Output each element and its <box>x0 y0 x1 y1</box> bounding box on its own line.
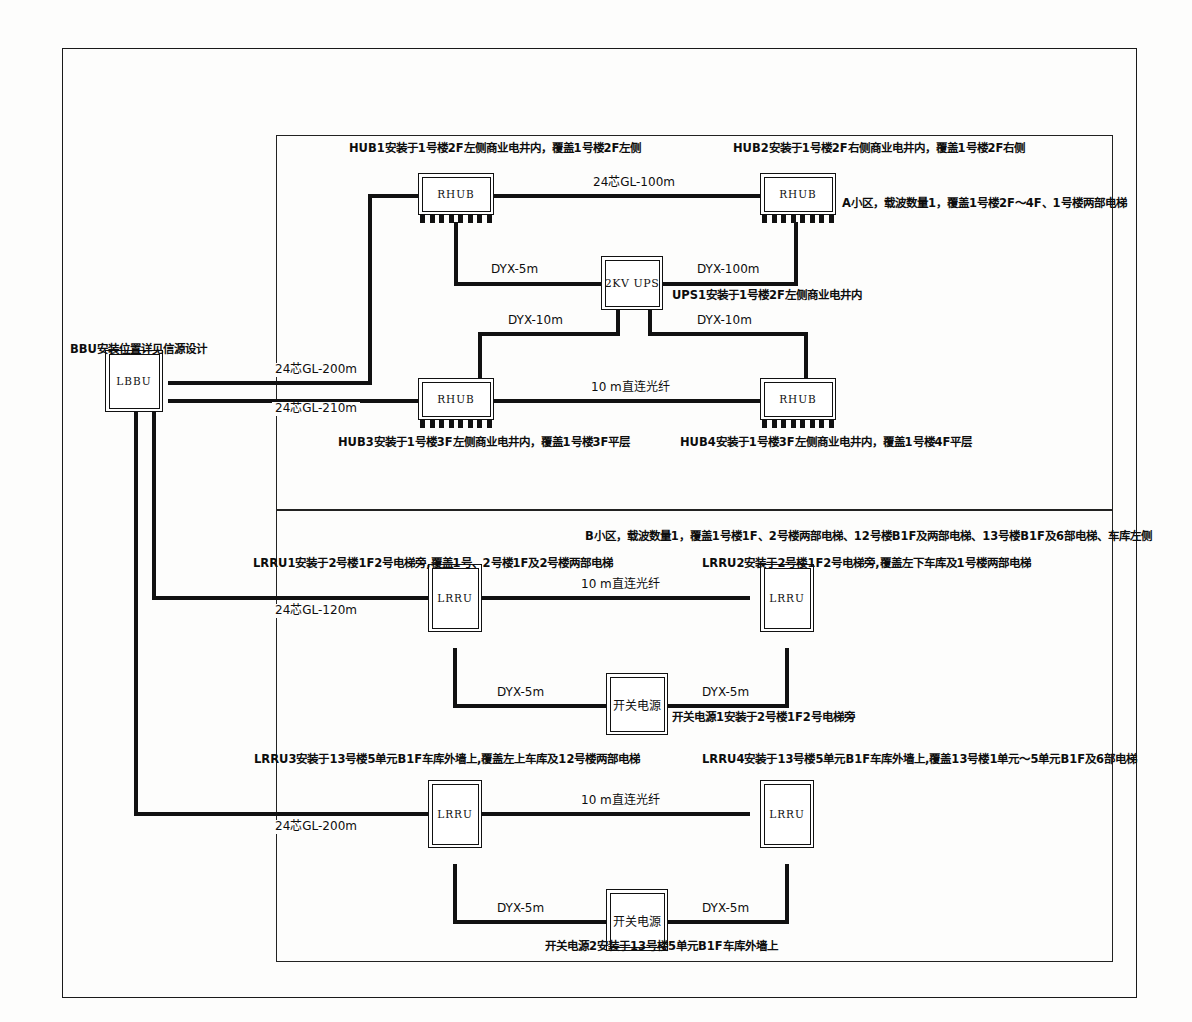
note-lrru3: LRRU3安装于13号楼5单元B1F车库外墙上,覆盖左上车库及12号楼两部电梯 <box>254 753 640 766</box>
note-ups1: UPS1安装于1号楼2F左侧商业电井内 <box>672 289 862 302</box>
note-psu2: 开关电源2安装于13号楼5单元B1F车库外墙上 <box>545 940 778 953</box>
note-rhub4: HUB4安装于1号楼3F左侧商业电井内，覆盖1号楼4F平层 <box>680 436 972 449</box>
note-lrru2: LRRU2安装于2号楼1F2号电梯旁,覆盖左下车库及1号楼两部电梯 <box>702 557 1031 570</box>
note-lrru4: LRRU4安装于13号楼5单元B1F车库外墙上,覆盖13号楼1单元～5单元B1F… <box>702 753 1137 766</box>
device-rhub1[interactable]: RHUB <box>418 173 494 215</box>
device-rhub2-connector-pins <box>762 215 834 223</box>
link-label-rhub1-rhub2: 24芯GL-100m <box>590 176 678 190</box>
link-label-rhub3-rhub4: 10 m直连光纤 <box>588 381 673 395</box>
device-lbbu[interactable]: LBBU <box>105 350 163 412</box>
wire-psu2-to-lrru4-power <box>668 920 789 924</box>
device-rhub1-label: RHUB <box>437 188 475 200</box>
device-lrru4[interactable]: LRRU <box>760 780 814 848</box>
device-lrru2-label: LRRU <box>769 592 805 604</box>
wire-lbbu-bottom-leg-inner <box>152 412 156 598</box>
link-label-psu2-lrru3: DYX-5m <box>494 902 547 916</box>
wire-lbbu-to-lrru1 <box>152 596 428 600</box>
device-lrru1-label: LRRU <box>437 592 473 604</box>
device-rhub1-connector-pins <box>420 215 492 223</box>
note-lrru1: LRRU1安装于2号楼1F2号电梯旁,覆盖1号、2号楼1F及2号楼两部电梯 <box>253 557 613 570</box>
device-lrru3[interactable]: LRRU <box>428 780 482 848</box>
wire-lrru3-to-lrru4 <box>482 812 750 816</box>
wire-psu2-to-lrru3-power <box>453 920 608 924</box>
wire-ups-to-rhub4-power-vertical <box>804 332 808 380</box>
link-label-ups-rhub1: DYX-5m <box>488 263 541 277</box>
wire-lrru1-down-to-psu1 <box>453 648 457 706</box>
note-lbbu: BBU安装位置详见信源设计 <box>70 343 207 356</box>
link-label-psu1-lrru1: DYX-5m <box>494 686 547 700</box>
device-rhub3-label: RHUB <box>437 393 475 405</box>
device-rhub4[interactable]: RHUB <box>760 378 836 420</box>
wire-ups-to-rhub2-power-vertical <box>794 222 798 284</box>
device-lrru1[interactable]: LRRU <box>428 564 482 632</box>
link-label-lrru1-lrru2: 10 m直连光纤 <box>578 578 663 592</box>
note-rhub1: HUB1安装于1号楼2F左侧商业电井内，覆盖1号楼2F左侧 <box>349 142 641 155</box>
link-label-lbbu-rhub1: 24芯GL-200m <box>272 363 360 377</box>
wire-rhub1-down-to-ups <box>454 222 458 284</box>
wire-ups-to-rhub1-power <box>454 282 602 286</box>
wire-rhub3-to-rhub4 <box>494 399 760 403</box>
note-rhub3: HUB3安装于1号楼3F左侧商业电井内，覆盖1号楼3F平层 <box>338 436 630 449</box>
wire-ups-to-rhub3-power-horizontal <box>478 332 620 336</box>
device-rhub2[interactable]: RHUB <box>760 173 836 215</box>
link-label-psu2-lrru4: DYX-5m <box>699 902 752 916</box>
wire-lbbu-to-rhub1-vertical <box>368 194 372 383</box>
link-label-lrru3-lrru4: 10 m直连光纤 <box>578 794 663 808</box>
link-label-ups-rhub3: DYX-10m <box>505 314 566 328</box>
wire-lrru2-down-to-psu1 <box>785 648 789 706</box>
wire-ups-to-rhub4-power-horizontal <box>648 332 808 336</box>
wire-lbbu-to-rhub1-horizontal <box>168 381 372 385</box>
device-rhub4-label: RHUB <box>779 393 817 405</box>
device-lrru3-label: LRRU <box>437 808 473 820</box>
wire-psu1-to-lrru2-power <box>668 704 789 708</box>
diagram-canvas: LBBU RHUB RHUB 2KV UPS RHUB RHUB LRRU LR… <box>0 0 1192 1022</box>
wire-lrru1-to-lrru2 <box>482 596 750 600</box>
device-rhub3-connector-pins <box>420 420 492 428</box>
link-label-lbbu-lrru3: 24芯GL-200m <box>272 820 360 834</box>
wire-ups-to-rhub2-power-horizontal <box>661 282 798 286</box>
device-lrru2[interactable]: LRRU <box>760 564 814 632</box>
note-area-a: A小区，载波数量1，覆盖1号楼2F～4F、1号楼两部电梯 <box>842 197 1127 210</box>
link-label-lbbu-lrru1: 24芯GL-120m <box>272 604 360 618</box>
wire-lbbu-to-lrru3 <box>134 812 428 816</box>
device-rhub3[interactable]: RHUB <box>418 378 494 420</box>
device-ups1-label: 2KV UPS <box>605 277 659 290</box>
wire-lrru3-down-to-psu2 <box>453 864 457 922</box>
area-b-panel <box>276 510 1113 962</box>
wire-ups-bottom-right-leg <box>648 308 652 334</box>
link-label-psu1-lrru2: DYX-5m <box>699 686 752 700</box>
wire-ups-bottom-left-leg <box>616 308 620 334</box>
note-psu1: 开关电源1安装于2号楼1F2号电梯旁 <box>672 711 855 724</box>
wire-lrru4-down-to-psu2 <box>785 864 789 922</box>
note-rhub2: HUB2安装于1号楼2F右侧商业电井内，覆盖1号楼2F右侧 <box>733 142 1025 155</box>
note-area-b: B小区，载波数量1，覆盖1号楼1F、2号楼两部电梯、12号楼B1F及两部电梯、1… <box>585 530 1152 543</box>
device-psu1-label: 开关电源 <box>613 696 661 713</box>
link-label-lbbu-rhub3: 24芯GL-210m <box>272 402 360 416</box>
device-ups1[interactable]: 2KV UPS <box>601 256 663 310</box>
device-lbbu-label: LBBU <box>116 375 151 387</box>
wire-ups-to-rhub3-power-vertical <box>478 332 482 380</box>
device-rhub2-label: RHUB <box>779 188 817 200</box>
wire-rhub1-to-rhub2 <box>494 194 760 198</box>
device-psu2-label: 开关电源 <box>613 912 661 929</box>
wire-lbbu-bottom-leg-outer <box>134 412 138 815</box>
device-lrru4-label: LRRU <box>769 808 805 820</box>
device-rhub4-connector-pins <box>762 420 834 428</box>
wire-psu1-to-lrru1-power <box>453 704 608 708</box>
device-psu1[interactable]: 开关电源 <box>606 673 668 735</box>
link-label-ups-rhub2: DYX-100m <box>694 263 762 277</box>
wire-rhub1-left-stub <box>368 194 418 198</box>
link-label-ups-rhub4: DYX-10m <box>694 314 755 328</box>
